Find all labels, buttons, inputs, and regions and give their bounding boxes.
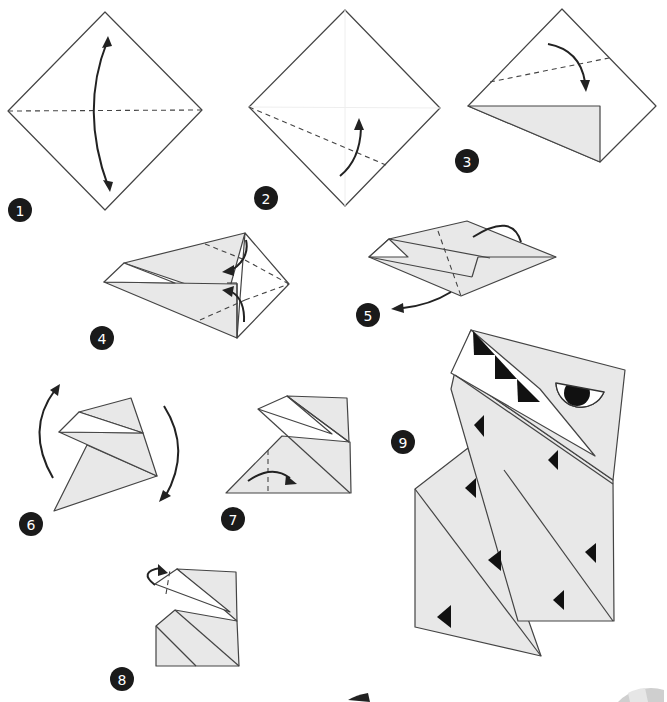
step-9: 9: [391, 330, 625, 656]
step-3: 3: [455, 9, 656, 173]
step-2: 2: [249, 10, 440, 210]
step-badge-6: 6: [19, 512, 43, 536]
step-3-folded-flap: [468, 106, 600, 162]
step-badge-7: 7: [221, 507, 245, 531]
step-6-rotate-arrow-left: [39, 390, 55, 478]
step-6: 6: [19, 384, 178, 536]
step-1: 1: [8, 12, 202, 222]
arrowhead-icon: [391, 303, 404, 313]
origami-diagram: 1 2 3: [0, 0, 667, 702]
arrowhead-icon: [159, 490, 171, 502]
step-badge-3: 3: [455, 149, 479, 173]
step-number: 7: [229, 512, 238, 528]
step-badge-2: 2: [254, 186, 278, 210]
step-badge-9: 9: [391, 430, 415, 454]
step-number: 5: [364, 308, 373, 324]
step-7: 7: [221, 396, 351, 531]
step-badge-4: 4: [90, 326, 114, 350]
step-4-right-flap: [237, 233, 289, 338]
step-number: 4: [98, 331, 107, 347]
step-5-shape: [369, 221, 556, 296]
step-number: 9: [399, 435, 408, 451]
partial-color-wheel: [618, 688, 664, 702]
step-8: 8: [110, 564, 239, 691]
step-4: 4: [90, 233, 289, 350]
step-number: 1: [16, 203, 25, 219]
step-5: 5: [356, 221, 556, 327]
step-number: 2: [262, 191, 271, 207]
step-6-rotate-arrow-right: [164, 406, 178, 497]
step-5-output-arrow: [403, 292, 451, 308]
step-badge-5: 5: [356, 303, 380, 327]
step-number: 6: [27, 517, 36, 533]
step-badge-1: 1: [8, 198, 32, 222]
step-number: 3: [463, 154, 472, 170]
partial-logo-fragment: [348, 693, 370, 702]
step-number: 8: [118, 672, 127, 688]
step-badge-8: 8: [110, 667, 134, 691]
step-4-lower-layer: [104, 282, 237, 338]
arrowhead-icon: [158, 564, 168, 576]
